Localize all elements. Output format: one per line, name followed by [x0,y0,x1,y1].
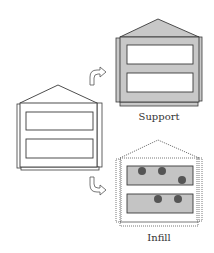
infill-label: Infill [119,232,199,243]
curved-arrow-down-right-icon [90,177,106,195]
whole-building [17,85,102,170]
infill-building [116,140,202,226]
curved-arrow-up-right-icon [90,67,106,85]
support-label: Support [119,111,199,122]
support-building [116,19,202,106]
diagram-canvas [0,0,214,253]
